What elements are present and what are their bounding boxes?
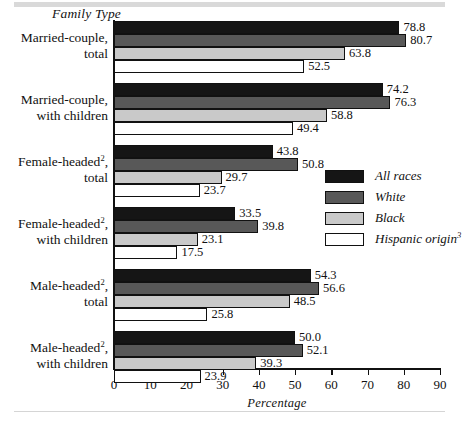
bar-all-races: [114, 269, 311, 282]
footnote-marker: 3: [457, 230, 461, 240]
chart-legend: All racesWhiteBlackHispanic origin3: [325, 168, 455, 252]
bar-value-label: 50.8: [302, 157, 324, 172]
footnote-marker: 2: [100, 277, 104, 287]
bar-all-races: [114, 331, 295, 344]
bar-value-label: 43.8: [277, 144, 299, 159]
category-label: Female-headed2,with children: [0, 216, 108, 248]
bar-value-label: 25.8: [211, 307, 233, 322]
legend-label: Hispanic origin3: [375, 231, 461, 247]
bar-row: 63.8: [114, 47, 466, 60]
category-label: Male-headed2,total: [0, 278, 108, 310]
category-label: Female-headed2,total: [0, 154, 108, 186]
bar-all-races: [114, 207, 235, 220]
bar-row: 52.5: [114, 60, 466, 73]
footnote-marker: 2: [100, 215, 104, 225]
footnote-marker: 2: [100, 339, 104, 349]
bar-value-label: 39.3: [260, 356, 282, 371]
bar-hispanic-origin: [114, 184, 200, 197]
bar-value-label: 52.1: [307, 343, 329, 358]
bar-hispanic-origin: [114, 308, 207, 321]
bar-value-label: 49.4: [297, 121, 319, 136]
legend-swatch-black: [325, 212, 364, 225]
bar-value-label: 33.5: [239, 206, 261, 221]
bar-all-races: [114, 21, 399, 34]
bar-value-label: 23.1: [202, 232, 224, 247]
bar-value-label: 76.3: [394, 95, 416, 110]
bar-value-label: 17.5: [181, 245, 203, 260]
bar-group: Married-couple,total78.880.763.852.5: [0, 21, 459, 73]
bar-value-label: 23.7: [204, 183, 226, 198]
legend-label: Black: [375, 210, 405, 226]
bar-group: Male-headed2,with children50.052.139.323…: [0, 331, 459, 383]
bar-row: 56.6: [114, 282, 466, 295]
bar-hispanic-origin: [114, 246, 177, 259]
bar-row: 54.3: [114, 269, 466, 282]
bar-black: [114, 295, 290, 308]
bar-value-label: 23.9: [205, 369, 227, 384]
bar-value-label: 63.8: [349, 46, 371, 61]
bar-row: 39.3: [114, 357, 466, 370]
category-label: Married-couple,total: [0, 30, 108, 62]
bar-row: 80.7: [114, 34, 466, 47]
bar-row: 25.8: [114, 308, 466, 321]
bar-group: Male-headed2,total54.356.648.525.8: [0, 269, 459, 321]
bar-value-label: 52.5: [308, 59, 330, 74]
legend-label: White: [375, 189, 405, 205]
bar-value-label: 48.5: [294, 294, 316, 309]
footnote-marker: 2: [100, 153, 104, 163]
bar-group: Married-couple,with children74.276.358.8…: [0, 83, 459, 135]
bar-white: [114, 282, 319, 295]
bar-hispanic-origin: [114, 370, 201, 383]
bar-white: [114, 220, 258, 233]
bar-black: [114, 109, 327, 122]
legend-item[interactable]: Black: [325, 210, 455, 231]
bar-all-races: [114, 145, 273, 158]
bar-hispanic-origin: [114, 60, 304, 73]
bar-value-label: 58.8: [331, 108, 353, 123]
bar-white: [114, 158, 298, 171]
bar-row: 76.3: [114, 96, 466, 109]
legend-swatch-hispanic-origin: [325, 233, 364, 246]
x-axis-title: Percentage: [113, 396, 441, 411]
legend-item[interactable]: All races: [325, 168, 455, 189]
bar-value-label: 29.7: [226, 170, 248, 185]
bar-row: 52.1: [114, 344, 466, 357]
y-axis-title: Family Type: [52, 6, 121, 22]
bar-black: [114, 357, 256, 370]
bar-row: 43.8: [114, 145, 466, 158]
bar-hispanic-origin: [114, 122, 293, 135]
bar-row: 58.8: [114, 109, 466, 122]
legend-item[interactable]: Hispanic origin3: [325, 231, 455, 252]
category-label: Male-headed2,with children: [0, 340, 108, 372]
bar-value-label: 56.6: [323, 281, 345, 296]
category-label: Married-couple,with children: [0, 92, 108, 124]
bar-row: 49.4: [114, 122, 466, 135]
bar-value-label: 80.7: [410, 33, 432, 48]
bar-row: 48.5: [114, 295, 466, 308]
legend-item[interactable]: White: [325, 189, 455, 210]
bar-row: 50.0: [114, 331, 466, 344]
bar-row: 23.9: [114, 370, 466, 383]
bar-value-label: 39.8: [262, 219, 284, 234]
legend-swatch-white: [325, 191, 364, 204]
legend-swatch-all-races: [325, 170, 364, 183]
bar-all-races: [114, 83, 383, 96]
legend-label: All races: [375, 168, 422, 184]
